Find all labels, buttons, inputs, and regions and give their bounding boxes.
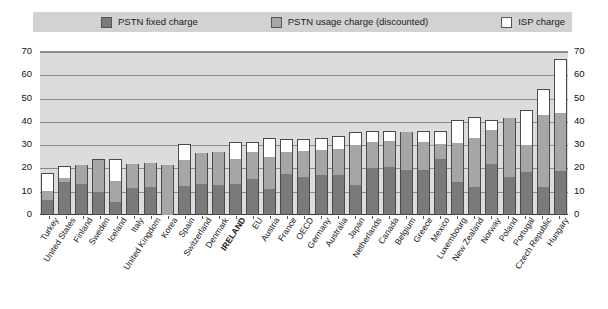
bar-portugal[interactable] bbox=[520, 110, 533, 215]
bar-switzerland[interactable] bbox=[195, 153, 208, 215]
bar-greece[interactable] bbox=[417, 131, 430, 215]
segment-isp-charge bbox=[229, 142, 242, 159]
segment-pstn-fixed bbox=[520, 172, 533, 215]
segment-pstn-usage bbox=[383, 141, 396, 168]
bar-united-kingdom[interactable] bbox=[144, 163, 157, 215]
segment-pstn-fixed bbox=[554, 171, 567, 215]
segment-pstn-usage bbox=[297, 151, 310, 177]
segment-isp-charge bbox=[58, 166, 71, 178]
y-tick-left-50: 50 bbox=[0, 93, 32, 103]
bar-belgium[interactable] bbox=[400, 132, 413, 215]
segment-pstn-usage bbox=[263, 157, 276, 190]
segment-pstn-fixed bbox=[383, 167, 396, 215]
bar-finland[interactable] bbox=[75, 165, 88, 215]
segment-isp-charge bbox=[383, 131, 396, 140]
bar-sweden[interactable] bbox=[92, 159, 105, 215]
segment-pstn-fixed bbox=[485, 164, 498, 215]
bar-hungary[interactable] bbox=[554, 59, 567, 215]
y-tick-right-50: 50 bbox=[574, 93, 602, 103]
bar-korea[interactable] bbox=[161, 165, 174, 215]
segment-pstn-usage bbox=[144, 163, 157, 187]
segment-pstn-fixed bbox=[263, 189, 276, 215]
bar-eu[interactable] bbox=[246, 142, 259, 215]
bar-united-states[interactable] bbox=[58, 166, 71, 215]
chart-root: PSTN fixed charge PSTN usage charge (dis… bbox=[0, 0, 608, 309]
segment-pstn-usage bbox=[485, 130, 498, 164]
segment-pstn-fixed bbox=[229, 184, 242, 215]
y-tick-right-0: 0 bbox=[574, 209, 602, 219]
segment-isp-charge bbox=[246, 142, 259, 152]
bar-italy[interactable] bbox=[126, 164, 139, 215]
segment-pstn-fixed bbox=[92, 192, 105, 215]
segment-pstn-fixed bbox=[297, 177, 310, 215]
bar-iceland[interactable] bbox=[109, 159, 122, 215]
segment-pstn-usage bbox=[161, 165, 174, 215]
segment-pstn-fixed bbox=[400, 170, 413, 215]
legend-item-pstn-fixed: PSTN fixed charge bbox=[101, 12, 198, 32]
bar-germany[interactable] bbox=[315, 138, 328, 215]
y-tick-right-70: 70 bbox=[574, 46, 602, 56]
segment-pstn-usage bbox=[195, 153, 208, 183]
segment-pstn-fixed bbox=[212, 185, 225, 215]
segment-pstn-fixed bbox=[126, 188, 139, 215]
y-tick-left-30: 30 bbox=[0, 139, 32, 149]
bar-mexico[interactable] bbox=[434, 131, 447, 215]
y-tick-right-10: 10 bbox=[574, 186, 602, 196]
segment-isp-charge bbox=[537, 89, 550, 115]
bar-poland[interactable] bbox=[503, 118, 516, 215]
segment-pstn-fixed bbox=[144, 187, 157, 215]
segment-pstn-usage bbox=[126, 164, 139, 188]
bar-norway[interactable] bbox=[485, 120, 498, 215]
segment-isp-charge bbox=[417, 131, 430, 141]
segment-isp-charge bbox=[332, 136, 345, 149]
segment-pstn-fixed bbox=[537, 187, 550, 215]
bar-austria[interactable] bbox=[263, 138, 276, 215]
segment-isp-charge bbox=[178, 144, 191, 160]
y-tick-right-20: 20 bbox=[574, 162, 602, 172]
bar-turkey[interactable] bbox=[41, 173, 54, 215]
bar-canada[interactable] bbox=[383, 131, 396, 215]
segment-pstn-usage bbox=[280, 152, 293, 174]
bar-new-zealand[interactable] bbox=[468, 117, 481, 215]
bar-japan[interactable] bbox=[349, 132, 362, 215]
bar-australia[interactable] bbox=[332, 136, 345, 215]
legend-label-isp: ISP charge bbox=[518, 17, 565, 27]
y-tick-left-40: 40 bbox=[0, 116, 32, 126]
segment-pstn-usage bbox=[92, 160, 105, 191]
segment-pstn-usage bbox=[503, 118, 516, 176]
segment-isp-charge bbox=[434, 131, 447, 144]
bar-spain[interactable] bbox=[178, 144, 191, 215]
bar-netherlands[interactable] bbox=[366, 131, 379, 215]
segment-isp-charge bbox=[451, 120, 464, 143]
segment-pstn-fixed bbox=[246, 179, 259, 215]
segment-pstn-usage bbox=[554, 113, 567, 171]
segment-isp-charge bbox=[468, 117, 481, 138]
bar-oecd[interactable] bbox=[297, 139, 310, 215]
chart-legend: PSTN fixed charge PSTN usage charge (dis… bbox=[33, 12, 572, 32]
y-tick-right-30: 30 bbox=[574, 139, 602, 149]
y-tick-left-70: 70 bbox=[0, 46, 32, 56]
segment-pstn-usage bbox=[332, 149, 345, 176]
segment-isp-charge bbox=[554, 59, 567, 113]
x-axis-labels: TurkeyUnited StatesFinlandSwedenIcelandI… bbox=[40, 216, 568, 309]
segment-isp-charge bbox=[366, 131, 379, 141]
segment-pstn-fixed bbox=[349, 185, 362, 215]
bar-france[interactable] bbox=[280, 139, 293, 215]
segment-pstn-usage bbox=[434, 144, 447, 159]
segment-isp-charge bbox=[485, 120, 498, 130]
bar-luxembourg[interactable] bbox=[451, 120, 464, 215]
segment-pstn-fixed bbox=[58, 182, 71, 215]
segment-pstn-usage bbox=[109, 181, 122, 202]
legend-swatch-pstn-fixed bbox=[101, 17, 112, 28]
segment-pstn-fixed bbox=[366, 168, 379, 215]
segment-pstn-fixed bbox=[434, 159, 447, 215]
bar-ireland[interactable] bbox=[229, 142, 242, 215]
legend-label-pstn-fixed: PSTN fixed charge bbox=[118, 17, 198, 27]
segment-pstn-usage bbox=[468, 138, 481, 187]
segment-pstn-fixed bbox=[503, 177, 516, 215]
segment-isp-charge bbox=[297, 139, 310, 151]
bar-czech-republic[interactable] bbox=[537, 89, 550, 215]
legend-swatch-pstn-usage bbox=[271, 17, 282, 28]
segment-pstn-fixed bbox=[109, 202, 122, 215]
bar-denmark[interactable] bbox=[212, 152, 225, 215]
